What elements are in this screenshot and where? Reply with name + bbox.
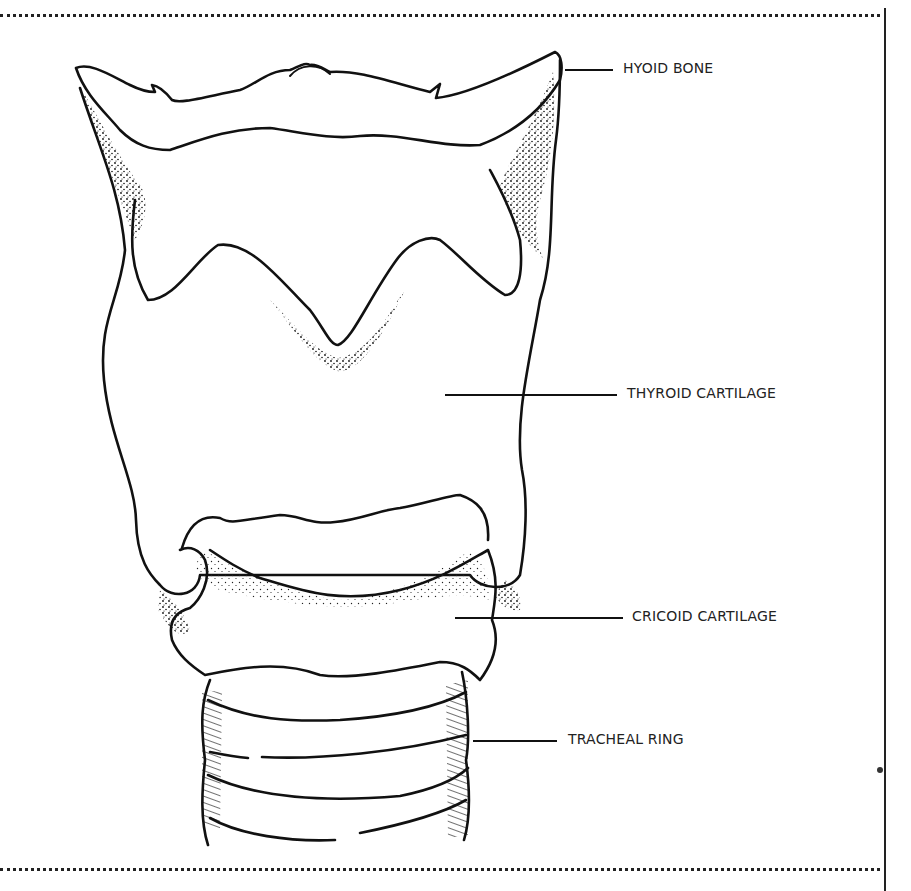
tracheal-leader-line (473, 740, 557, 742)
label-hyoid-bone: HYOID BONE (623, 60, 713, 76)
cricoid-left-shading (158, 590, 190, 634)
label-tracheal-ring: TRACHEAL RING (568, 731, 684, 747)
tracheal-ring-4a (210, 818, 335, 840)
hyoid-horn-shading-left (82, 90, 145, 240)
cricoid-leader-line (455, 617, 623, 619)
label-thyroid-cartilage: THYROID CARTILAGE (627, 385, 776, 401)
larynx-illustration (0, 0, 911, 891)
cricoid-right-shading (495, 580, 520, 610)
hyoid-horn-shading-right (500, 72, 554, 260)
cricoid-arch-upper (182, 495, 488, 548)
hyoid-leader-line (565, 69, 613, 71)
label-cricoid-cartilage: CRICOID CARTILAGE (632, 608, 777, 624)
cricoid-shading (195, 550, 490, 607)
thyroid-notch-shading (270, 290, 405, 372)
thyroid-leader-line (445, 394, 617, 396)
thyroid-superior-border (132, 170, 521, 345)
tracheal-ring-3 (208, 768, 468, 799)
tracheal-hatch-left (202, 690, 222, 830)
tracheal-hatch-right (446, 680, 468, 838)
tracheal-ring-2b (262, 735, 466, 758)
tracheal-ring-1 (208, 692, 466, 721)
